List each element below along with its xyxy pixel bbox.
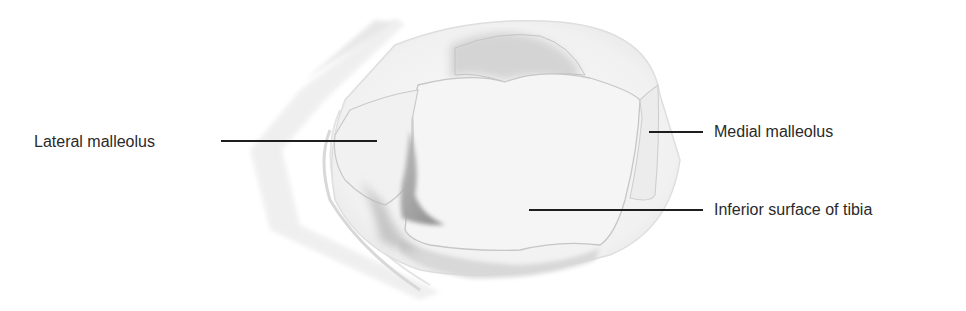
label-inferior-surface-tibia: Inferior surface of tibia (714, 201, 872, 219)
label-medial-malleolus: Medial malleolus (714, 123, 833, 141)
leader-line-medial-malleolus (649, 131, 703, 133)
ankle-bone-illustration (0, 0, 966, 311)
anatomy-diagram: Lateral malleolus Medial malleolus Infer… (0, 0, 966, 311)
leader-line-inferior-surface-tibia (529, 209, 703, 211)
label-lateral-malleolus: Lateral malleolus (34, 133, 155, 151)
leader-line-lateral-malleolus (221, 140, 377, 142)
